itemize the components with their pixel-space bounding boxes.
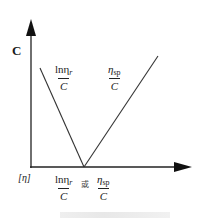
x-axis-label-right: ηsp C xyxy=(96,173,111,202)
right-line-label-den: C xyxy=(109,78,120,92)
x-axis-label-connector: 或 xyxy=(81,181,89,189)
x-label-left-den: C xyxy=(58,188,69,202)
intrinsic-viscosity-label: [η] xyxy=(18,173,31,183)
y-axis-arrow-icon xyxy=(26,19,36,36)
right-line-label-sub: sp xyxy=(113,68,120,77)
x-label-left-sub: r xyxy=(69,178,72,187)
left-line-label: lnηr C xyxy=(54,63,73,92)
y-axis-label: C xyxy=(12,44,21,57)
left-line-label-num: lnη xyxy=(55,63,69,75)
x-label-left-num: lnη xyxy=(55,173,69,185)
x-label-right-den: C xyxy=(98,188,109,202)
left-line-label-sub: r xyxy=(69,68,72,77)
x-axis-label-left: lnηr C xyxy=(54,173,73,202)
right-line-label: ηsp C xyxy=(107,63,122,92)
figure-caption xyxy=(60,212,170,218)
left-line-label-den: C xyxy=(58,78,69,92)
x-label-right-sub: sp xyxy=(102,178,109,187)
x-axis-arrow-icon xyxy=(174,162,192,172)
